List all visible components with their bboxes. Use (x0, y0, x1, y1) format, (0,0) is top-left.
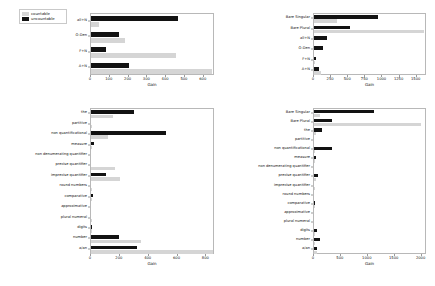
bar-uncountable (314, 174, 318, 177)
bar-uncountable (314, 201, 315, 204)
y-axis-tick (311, 158, 313, 159)
y-axis-label: precise quantifier (216, 175, 310, 179)
y-axis-label: measure (0, 143, 87, 147)
bar-uncountable (314, 67, 319, 71)
y-axis-tick (311, 194, 313, 195)
x-axis-tick-label: 500 (344, 78, 351, 82)
x-axis-tick-label: 200 (124, 78, 131, 82)
bar-uncountable (91, 173, 106, 177)
x-axis-tick-label: 600 (173, 257, 180, 261)
bar-countable (91, 115, 113, 119)
y-axis-label: comparative (216, 202, 310, 206)
x-axis-tick-label: 750 (361, 78, 368, 82)
x-axis-tick-label: 500 (336, 257, 343, 261)
bar-uncountable (314, 119, 332, 122)
y-axis-tick (311, 18, 313, 19)
bar-countable (91, 229, 92, 233)
x-axis-tick-label: 800 (202, 257, 209, 261)
bar-uncountable (314, 156, 316, 159)
x-axis-tick-label: 400 (144, 257, 151, 261)
y-axis-tick (88, 134, 90, 135)
bar-uncountable (314, 147, 332, 150)
bar-uncountable (314, 247, 317, 250)
y-axis-tick (88, 165, 90, 166)
x-axis-tick-label: 250 (327, 78, 334, 82)
y-axis-tick (311, 121, 313, 122)
y-axis-label: Bare Singular (216, 16, 310, 20)
y-axis-tick (88, 217, 90, 218)
y-axis-tick (311, 167, 313, 168)
bar-countable (314, 132, 316, 135)
bar-uncountable (314, 57, 316, 61)
y-axis-tick (311, 130, 313, 131)
y-axis-tick (311, 28, 313, 29)
x-axis-tick-label: 100 (105, 78, 112, 82)
y-axis-tick (88, 154, 90, 155)
x-axis-tick-label: 300 (143, 78, 150, 82)
y-axis-label: digits (216, 229, 310, 233)
x-axis-title: Gain (147, 262, 156, 266)
y-axis-label: F+N (216, 58, 310, 62)
y-axis-tick (311, 203, 313, 204)
bar-countable (314, 187, 315, 190)
y-axis-label: all+N (216, 37, 310, 41)
x-axis-tick-label: 2000 (416, 257, 425, 261)
y-axis-label: digits (0, 226, 87, 230)
bar-countable (91, 146, 92, 150)
x-axis-tick-label: 1000 (362, 257, 371, 261)
y-axis-tick (311, 185, 313, 186)
y-axis-label: approximative (216, 211, 310, 215)
y-axis-tick (311, 149, 313, 150)
x-axis-title: Gain (365, 262, 374, 266)
y-axis-label: imprecise quantifier (216, 184, 310, 188)
x-axis-title: Gain (365, 83, 374, 87)
bar-countable (314, 123, 421, 126)
bar-uncountable (314, 36, 327, 40)
bar-group-layer (91, 109, 213, 253)
bar-uncountable (314, 26, 350, 30)
bar-countable (314, 242, 315, 245)
x-axis-tick-label: 0 (312, 257, 314, 261)
y-axis-label: the (0, 111, 87, 115)
y-axis-label: measure (216, 156, 310, 160)
y-axis-label: partitive (0, 122, 87, 126)
y-axis-tick (88, 20, 90, 21)
bar-group-layer (91, 14, 213, 74)
plot-area (90, 13, 214, 75)
x-axis-tick-label: 0 (312, 78, 314, 82)
y-axis-label: Bare Plural (216, 120, 310, 124)
y-axis-tick (88, 186, 90, 187)
y-axis-tick (311, 69, 313, 70)
x-axis-tick-label: 600 (199, 78, 206, 82)
bar-uncountable (91, 131, 166, 135)
y-axis-label: F+N (0, 50, 87, 54)
bar-countable (314, 205, 315, 208)
y-axis-tick (88, 113, 90, 114)
bar-uncountable (91, 194, 93, 198)
y-axis-tick (311, 240, 313, 241)
y-axis-label: plural numeral (216, 220, 310, 224)
x-axis-tick-label: 1500 (411, 78, 420, 82)
bar-uncountable (91, 32, 119, 37)
bar-group-layer (314, 14, 425, 74)
y-axis-label: A+N (0, 65, 87, 69)
y-axis-label: non denumerating quantifier (0, 153, 87, 157)
y-axis-label: round numbers (216, 193, 310, 197)
bar-countable (314, 178, 316, 181)
y-axis-label: plural numeral (0, 216, 87, 220)
bar-countable (91, 219, 92, 223)
bar-uncountable (91, 47, 106, 52)
x-axis: 0200400600800Gain (90, 254, 214, 268)
y-axis-label: precise quantifier (0, 164, 87, 168)
bar-uncountable (91, 235, 119, 239)
x-axis-tick-label: 500 (180, 78, 187, 82)
bar-uncountable (314, 15, 378, 19)
x-axis: 0100200300400500600Gain (90, 75, 214, 89)
y-axis-tick (311, 212, 313, 213)
y-axis-label: A+N (216, 68, 310, 72)
y-axis-label: O-Den (216, 47, 310, 51)
x-axis-title: Gain (147, 83, 156, 87)
y-axis-tick (88, 123, 90, 124)
y-axis-tick (88, 67, 90, 68)
y-axis-label: imprecise quantifier (0, 174, 87, 178)
